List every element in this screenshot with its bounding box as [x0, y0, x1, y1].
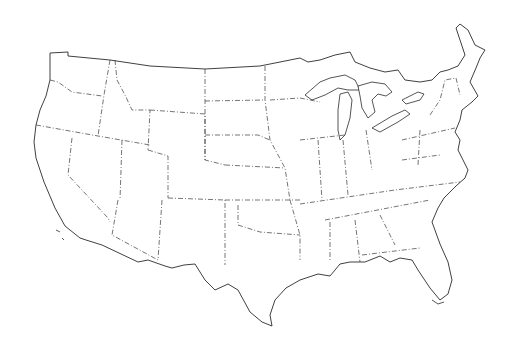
us-national-outline	[34, 24, 485, 326]
us-outline-map	[0, 0, 513, 344]
florida-keys	[432, 300, 444, 304]
channel-islands	[56, 230, 64, 240]
